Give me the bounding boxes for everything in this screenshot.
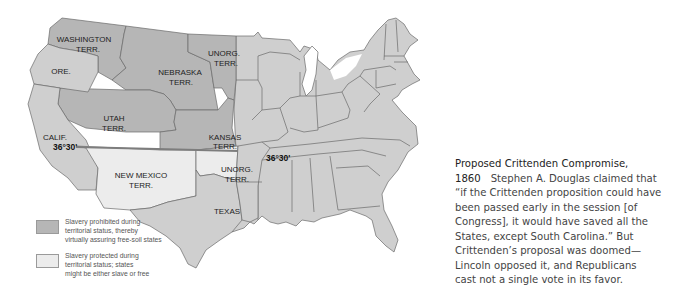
legend-text-prohibited: Slavery prohibited during territorial st… — [65, 218, 162, 244]
legend-text-protected: Slavery protected during territorial sta… — [65, 252, 149, 278]
label-california: CALIF. — [43, 133, 67, 142]
legend-line: Slavery prohibited during — [65, 218, 162, 227]
label-new-mexico: NEW MEXICO — [115, 171, 167, 180]
caption-line: cast not a single vote in its favor. — [455, 273, 675, 288]
label-oregon: ORE. — [51, 67, 71, 76]
caption-first-line: 1860Stephen A. Douglas claimed that — [455, 172, 675, 187]
label-36-30-east: 36°30' — [266, 153, 290, 163]
label-unorg-south-terr: TERR. — [225, 175, 249, 184]
map-caption: Proposed Crittenden Compromise, 1860Step… — [455, 157, 675, 288]
crittenden-compromise-map: WASHINGTON TERR. ORE. NEBRASKA TERR. UNO… — [0, 0, 460, 291]
label-kansas-terr: TERR. — [213, 142, 237, 151]
label-utah: UTAH — [103, 114, 124, 123]
label-nebraska: NEBRASKA — [158, 68, 202, 77]
legend-line: territorial status, thereby — [65, 227, 162, 236]
label-unorg-north-terr: TERR. — [214, 59, 238, 68]
caption-line: Crittenden’s proposal was doomed— — [455, 244, 675, 259]
caption-title: Proposed Crittenden Compromise, — [455, 157, 675, 172]
caption-line: States, except South Carolina.” But — [455, 230, 675, 245]
caption-line: Lincoln opposed it, and Republicans — [455, 259, 675, 274]
label-utah-terr: TERR. — [102, 124, 126, 133]
label-nebraska-terr: TERR. — [169, 78, 193, 87]
label-unorg-south: UNORG. — [221, 165, 253, 174]
label-unorg-north: UNORG. — [208, 49, 240, 58]
label-texas: TEXAS — [214, 207, 240, 216]
legend-line: virtually assuring free-soil states — [65, 236, 162, 245]
legend-swatch-protected — [36, 254, 59, 268]
legend-swatch-prohibited — [36, 220, 59, 234]
caption-line: been passed early in the session [of — [455, 201, 675, 216]
legend-line: territorial status; states — [65, 261, 149, 270]
caption-line: Congress], it would have saved all the — [455, 215, 675, 230]
caption-year: 1860 — [455, 173, 481, 184]
label-kansas: KANSAS — [209, 133, 241, 142]
label-new-mexico-terr: TERR. — [129, 181, 153, 190]
label-washington: WASHINGTON — [57, 35, 112, 44]
label-washington-terr: TERR. — [76, 45, 100, 54]
label-36-30-west: 36°30' — [53, 142, 77, 152]
caption-line: “if the Crittenden proposition could hav… — [455, 186, 675, 201]
legend-line: Slavery protected during — [65, 252, 149, 261]
caption-line: Stephen A. Douglas claimed that — [491, 173, 657, 184]
legend-line: might be either slave or free — [65, 270, 149, 279]
